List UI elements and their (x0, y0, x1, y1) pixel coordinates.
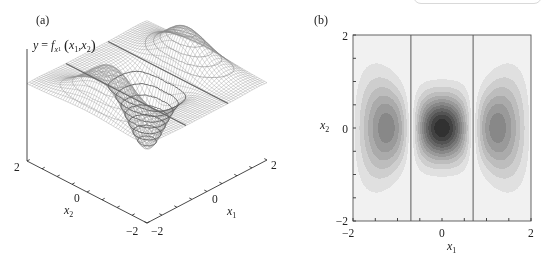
a-x1-axis-label: x1 (227, 205, 236, 219)
a-x2-label-sub: 2 (69, 210, 73, 219)
z-label-equals: = (41, 38, 48, 52)
contour-zero-lines (411, 35, 473, 221)
panel-b-label: (b) (314, 14, 328, 27)
b-x1-axis-label: x1 (447, 240, 456, 254)
plot-frame (353, 35, 531, 221)
a-x1-tick-max: 2 (271, 159, 277, 171)
a-x2-tick-mid: 0 (74, 192, 80, 204)
a-x2-tick-min: −2 (126, 225, 138, 237)
b-x1-tick-mid: 0 (439, 227, 445, 239)
contour-axis-ticks (353, 35, 531, 221)
z-label-f-sub-index: 1 (58, 46, 61, 52)
panel-a-label: (a) (36, 14, 49, 27)
z-axis-label: y = fx1 (x1,x2) (33, 38, 96, 54)
z-label-open-paren: ( (64, 37, 69, 53)
z-label-y: y (33, 38, 38, 52)
contour-plot-axes (353, 35, 531, 221)
a-x2-axis-label: x2 (64, 204, 73, 218)
z-label-close-paren: ) (91, 37, 96, 53)
b-x1-tick-max: 2 (528, 227, 534, 239)
b-x1-label-sub: 1 (452, 246, 456, 255)
a-x1-tick-min: −2 (151, 225, 163, 237)
b-x2-axis-label: x2 (320, 119, 329, 133)
b-x2-tick-min: −2 (326, 215, 348, 227)
a-x1-tick-mid: 0 (212, 193, 218, 205)
b-x1-tick-min: −2 (342, 227, 354, 239)
a-x1-label-sub: 1 (232, 211, 236, 220)
z-label-arg1-index: 1 (74, 45, 78, 54)
a-x2-tick-max: 2 (14, 161, 20, 173)
surface-level-ring (145, 32, 234, 78)
b-x2-label-sub: 2 (325, 125, 329, 134)
z-label-arg2: x (81, 38, 86, 52)
b-x2-tick-max: 2 (326, 30, 348, 42)
